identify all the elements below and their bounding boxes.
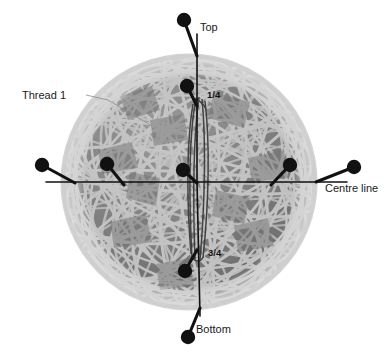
label-top: Top [200,21,218,33]
label-centre-line: Centre line [325,182,378,194]
label-three-quarter: 3/4 [208,247,222,258]
label-bottom: Bottom [196,323,231,335]
pin-right-outer [316,160,361,182]
label-quarter: 1/4 [207,89,221,100]
label-thread-1: Thread 1 [22,89,66,101]
ball-winding-diagram: Top Bottom Centre line Thread 1 1/4 3/4 [0,0,391,363]
figure-canvas: Top Bottom Centre line Thread 1 1/4 3/4 [0,0,391,363]
pin-top [177,13,197,56]
